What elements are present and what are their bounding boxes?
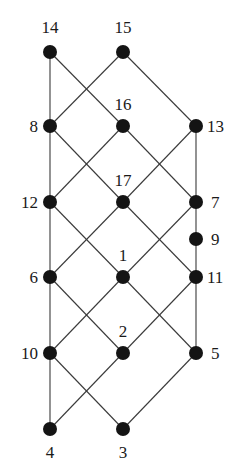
node-10 bbox=[43, 346, 57, 360]
node-label-17: 17 bbox=[115, 171, 133, 190]
node-label-3: 3 bbox=[119, 443, 128, 462]
edge-5-3 bbox=[123, 353, 196, 429]
node-12 bbox=[43, 195, 57, 209]
node-4 bbox=[43, 422, 57, 436]
node-9 bbox=[189, 232, 203, 246]
node-label-5: 5 bbox=[211, 344, 220, 363]
node-label-2: 2 bbox=[119, 322, 128, 341]
node-2 bbox=[116, 346, 130, 360]
node-13 bbox=[189, 119, 203, 133]
node-11 bbox=[189, 270, 203, 284]
node-3 bbox=[116, 422, 130, 436]
node-16 bbox=[116, 119, 130, 133]
node-1 bbox=[116, 270, 130, 284]
node-label-6: 6 bbox=[30, 268, 39, 287]
node-label-11: 11 bbox=[207, 268, 223, 287]
node-6 bbox=[43, 270, 57, 284]
node-label-8: 8 bbox=[30, 117, 39, 136]
node-label-13: 13 bbox=[207, 117, 224, 136]
node-label-16: 16 bbox=[115, 95, 132, 114]
node-label-12: 12 bbox=[21, 193, 38, 212]
edge-15-13 bbox=[123, 52, 196, 126]
node-label-10: 10 bbox=[21, 344, 38, 363]
node-5 bbox=[189, 346, 203, 360]
node-17 bbox=[116, 195, 130, 209]
node-8 bbox=[43, 119, 57, 133]
node-label-7: 7 bbox=[211, 193, 220, 212]
node-label-9: 9 bbox=[211, 230, 220, 249]
node-15 bbox=[116, 45, 130, 59]
node-label-4: 4 bbox=[46, 443, 55, 462]
node-7 bbox=[189, 195, 203, 209]
hasse-diagram: 1415816131217796111102543 bbox=[0, 0, 240, 476]
node-14 bbox=[43, 45, 57, 59]
node-label-1: 1 bbox=[119, 246, 128, 265]
node-label-14: 14 bbox=[42, 18, 60, 37]
node-label-15: 15 bbox=[115, 18, 132, 37]
